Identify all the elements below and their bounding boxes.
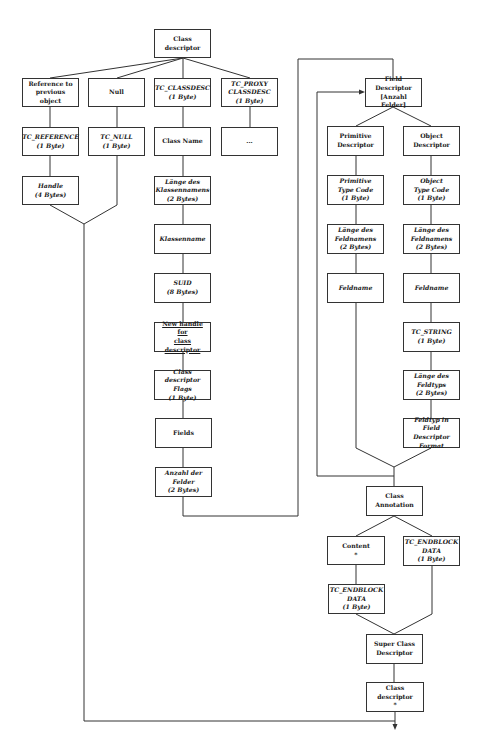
feldtyp-format-node: Feldtyp in Field Descriptor Format — [403, 418, 460, 448]
object-type-code-node: Object Type Code (1 Byte) — [403, 175, 460, 205]
node-label: Content * — [342, 542, 370, 559]
node-label: Super Class Descriptor — [374, 640, 415, 657]
node-label: Feldname — [415, 284, 449, 293]
node-label: Feldtyp in Field Descriptor Format — [406, 416, 457, 450]
handle-node: Handle (4 Bytes) — [22, 176, 79, 205]
node-label: Länge des Klassennamens (2 Bytes) — [155, 178, 209, 204]
node-label: Class descriptor * — [369, 684, 421, 710]
suid-node: SUID (8 Bytes) — [154, 273, 211, 303]
primitive-type-code-node: Primitive Type Code (1 Byte) — [327, 175, 384, 205]
tc-classdesc-node: TC_CLASSDESC (1 Byte) — [154, 78, 211, 107]
node-label: Primitive Descriptor — [337, 132, 374, 149]
node-label: Länge des Feldnamens (2 Bytes) — [335, 226, 377, 252]
laenge-feldnamens-object-node: Länge des Feldnamens (2 Bytes) — [403, 224, 460, 254]
node-label: Class descriptor — [157, 35, 208, 52]
klassenname-node: Klassenname — [154, 224, 211, 254]
tc-reference-node: TC_REFERENCE (1 Byte) — [22, 127, 79, 156]
node-label: Reference to previous object — [25, 80, 76, 106]
anzahl-felder-node: Anzahl der Felder (2 Bytes) — [155, 467, 212, 497]
class-descriptor-flags-node: Class descriptor Flags (1 Byte) — [154, 370, 211, 400]
node-label: Class descriptor Flags (1 Byte) — [157, 368, 208, 402]
object-descriptor-node: Object Descriptor — [403, 126, 460, 156]
node-label: Class Annotation — [375, 492, 414, 509]
node-label: ... — [246, 137, 252, 146]
tc-string-node: TC_STRING (1 Byte) — [403, 322, 460, 352]
tc-endblock-left-node: TC_ENDBLOCK DATA (1 Byte) — [328, 584, 385, 614]
node-label: Feldname — [339, 284, 373, 293]
ellipsis-node: ... — [221, 127, 278, 156]
node-label: Länge des Feldtyps (2 Bytes) — [414, 372, 449, 398]
field-descriptor-node: Field Descriptor [Anzahl Felder] — [365, 78, 422, 107]
laenge-klassennamens-node: Länge des Klassennamens (2 Bytes) — [154, 176, 211, 205]
node-label: Class Name — [162, 137, 203, 146]
class-descriptor-root: Class descriptor — [154, 29, 211, 58]
reference-node: Reference to previous object — [22, 78, 79, 107]
tc-null-node: TC_NULL (1 Byte) — [88, 127, 145, 156]
node-label: TC_ENDBLOCK DATA (1 Byte) — [330, 586, 384, 612]
class-descriptor-end-node: Class descriptor * — [366, 682, 424, 712]
node-label: Handle (4 Bytes) — [35, 182, 66, 199]
node-label: New handle for class descriptor — [157, 320, 208, 354]
super-class-descriptor-node: Super Class Descriptor — [366, 634, 423, 664]
content-node: Content * — [327, 536, 385, 565]
null-node: Null — [88, 78, 145, 107]
tc-endblock-right-node: TC_ENDBLOCK DATA (1 Byte) — [403, 536, 460, 566]
fields-node: Fields — [155, 418, 212, 448]
feldname-primitive-node: Feldname — [327, 273, 384, 303]
node-label: Object Type Code (1 Byte) — [414, 177, 449, 203]
node-label: Object Descriptor — [413, 132, 450, 149]
laenge-feldtyps-node: Länge des Feldtyps (2 Bytes) — [403, 370, 460, 400]
class-name-node: Class Name — [154, 127, 211, 156]
node-label: TC_ENDBLOCK DATA (1 Byte) — [405, 538, 459, 564]
node-label: SUID (8 Bytes) — [167, 279, 198, 296]
node-label: Fields — [173, 429, 194, 438]
node-label: Primitive Type Code (1 Byte) — [338, 177, 373, 203]
class-annotation-node: Class Annotation — [366, 486, 423, 516]
feldname-object-node: Feldname — [403, 273, 460, 303]
node-label: TC_NULL (1 Byte) — [100, 133, 132, 150]
node-label: TC_REFERENCE (1 Byte) — [22, 133, 79, 150]
node-label: TC_CLASSDESC (1 Byte) — [155, 84, 210, 101]
new-handle-node: New handle for class descriptor — [154, 322, 211, 352]
node-label: TC_STRING (1 Byte) — [411, 328, 452, 345]
node-label: TC_PROXY CLASSDESC (1 Byte) — [228, 80, 270, 106]
node-label: Field Descriptor [Anzahl Felder] — [368, 75, 419, 109]
node-label: Anzahl der Felder (2 Bytes) — [165, 469, 202, 495]
laenge-feldnamens-primitive-node: Länge des Feldnamens (2 Bytes) — [327, 224, 384, 254]
node-label: Null — [109, 88, 124, 97]
node-label: Länge des Feldnamens (2 Bytes) — [411, 226, 453, 252]
tc-proxy-classdesc-node: TC_PROXY CLASSDESC (1 Byte) — [221, 78, 278, 107]
node-label: Klassenname — [159, 235, 205, 244]
primitive-descriptor-node: Primitive Descriptor — [327, 126, 384, 156]
